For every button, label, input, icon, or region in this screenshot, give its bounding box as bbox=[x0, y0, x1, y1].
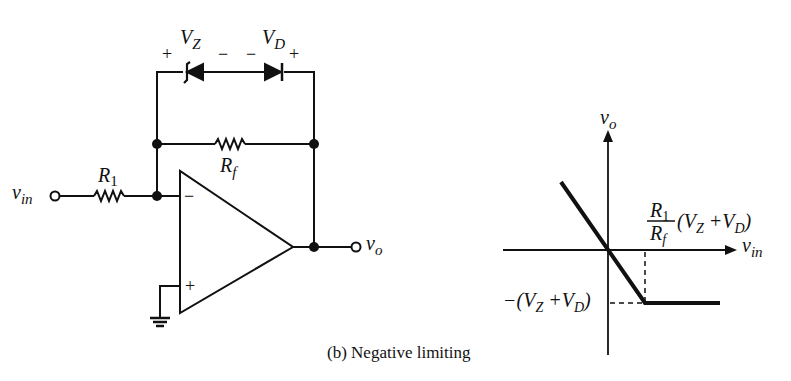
diode-icon bbox=[265, 63, 282, 81]
input-terminal bbox=[51, 192, 60, 201]
transfer-curve bbox=[561, 182, 720, 303]
zener-diode-icon bbox=[184, 62, 203, 83]
junction-dot bbox=[309, 139, 319, 149]
output-label: vo bbox=[366, 232, 383, 258]
x-axis-arrow-icon bbox=[725, 245, 737, 255]
limit-level-label: −(VZ +VD) bbox=[503, 289, 591, 315]
diode-voltage-label: VD bbox=[262, 26, 285, 52]
svg-text:(VZ +VD): (VZ +VD) bbox=[677, 210, 752, 236]
rf-label: Rf bbox=[219, 154, 238, 180]
junction-dot bbox=[309, 242, 319, 252]
output-terminal bbox=[352, 243, 361, 252]
opamp-inverting-sign: − bbox=[184, 186, 194, 206]
zener-plus-sign: + bbox=[162, 44, 172, 64]
x-axis-label: vin bbox=[742, 234, 763, 260]
diode-minus-sign: − bbox=[246, 44, 256, 64]
input-label: vin bbox=[12, 181, 33, 207]
zener-voltage-label: VZ bbox=[180, 26, 201, 52]
r1-label: R1 bbox=[97, 164, 118, 189]
ground-wire bbox=[160, 286, 180, 318]
diode-right-wire bbox=[284, 72, 314, 144]
figure-caption: (b) Negative limiting bbox=[327, 343, 471, 362]
ground-icon bbox=[150, 318, 170, 326]
opamp-noninverting-sign: + bbox=[185, 276, 195, 296]
negative-limiter-figure: + − − + VZ VD Rf R1 vin vo − + vo vin R1… bbox=[0, 0, 791, 381]
circuit bbox=[51, 62, 361, 326]
junction-dot bbox=[152, 139, 162, 149]
zener-branch-wire bbox=[157, 72, 183, 144]
r1-resistor-icon bbox=[94, 191, 124, 201]
junction-dot bbox=[152, 191, 162, 201]
rf-resistor-icon bbox=[215, 139, 245, 149]
svg-text:Rf: Rf bbox=[649, 222, 668, 247]
y-axis-label: vo bbox=[600, 106, 617, 132]
transfer-graph bbox=[503, 130, 737, 355]
diode-plus-sign: + bbox=[289, 44, 299, 64]
opamp-icon bbox=[180, 171, 293, 313]
zener-minus-sign: − bbox=[218, 44, 228, 64]
breakpoint-label: R1 Rf (VZ +VD) bbox=[647, 199, 752, 247]
